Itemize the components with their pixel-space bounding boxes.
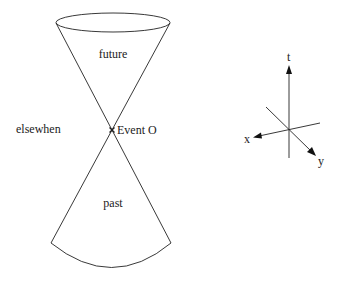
y-axis-label: y [318, 154, 324, 168]
future-cone-rim [56, 13, 170, 32]
past-cone-right-edge [112, 130, 171, 243]
past-cone-base-arc [51, 243, 171, 268]
t-axis-label: t [287, 50, 291, 64]
past-cone-left-edge [51, 130, 112, 243]
y-axis [266, 107, 311, 151]
event-label: Event O [117, 123, 157, 137]
future-cone-right-edge [112, 23, 170, 130]
past-label: past [103, 196, 123, 210]
t-axis-arrowhead-icon [286, 65, 292, 74]
future-cone-left-edge [56, 23, 112, 130]
elsewhen-label: elsewhen [16, 122, 61, 136]
future-label: future [99, 47, 128, 61]
event-marker [110, 128, 115, 133]
x-axis-arrowhead-icon [253, 133, 262, 139]
coordinate-axes: t x y [244, 50, 324, 168]
future-cone [56, 13, 170, 130]
light-cone-diagram: future past elsewhen Event O t x y [0, 0, 341, 284]
x-axis-label: x [244, 132, 250, 146]
